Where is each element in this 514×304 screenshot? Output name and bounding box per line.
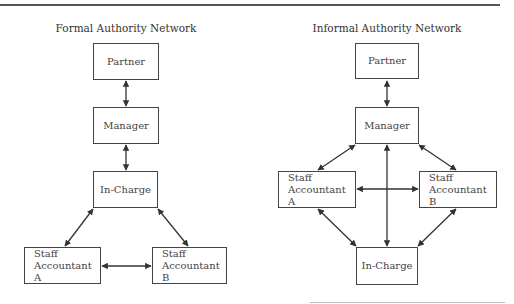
arrow-staffb-incharge-inf: [418, 209, 456, 246]
formal-manager-node: Manager: [93, 107, 159, 144]
informal-manager-node: Manager: [355, 107, 419, 144]
node-label: In-Charge: [362, 260, 413, 272]
arrow-incharge-staffa: [65, 209, 93, 246]
informal-partner-node: Partner: [355, 43, 419, 79]
formal-staff-accountant-b-node: StaffAccountant B: [152, 247, 227, 284]
node-label: Partner: [368, 55, 406, 67]
arrow-staffa-incharge-inf: [318, 209, 356, 246]
node-label: Manager: [364, 120, 410, 132]
node-label: Partner: [107, 56, 145, 68]
node-label-line2: Accountant B: [162, 260, 226, 284]
formal-partner-node: Partner: [93, 43, 159, 80]
informal-staff-accountant-b-node: StaffAccountant B: [419, 171, 497, 208]
arrow-incharge-staffb: [158, 209, 188, 246]
formal-staff-accountant-a-node: StaffAccountant A: [24, 247, 101, 284]
formal-network-title: Formal Authority Network: [56, 22, 197, 34]
formal-in-charge-node: In-Charge: [93, 171, 158, 208]
node-label-line1: Staff: [34, 248, 100, 260]
node-label-line2: Accountant B: [429, 184, 496, 208]
node-label-line2: Accountant A: [288, 184, 355, 208]
informal-staff-accountant-a-node: StaffAccountant A: [278, 171, 356, 208]
node-label-line1: Staff: [429, 172, 496, 184]
node-label-line1: Staff: [162, 248, 226, 260]
arrow-manager-staffa-inf: [318, 145, 355, 170]
informal-in-charge-node: In-Charge: [356, 247, 418, 285]
node-label: Manager: [103, 120, 149, 132]
node-label: In-Charge: [100, 184, 151, 196]
node-label-line1: Staff: [288, 172, 355, 184]
informal-network-title: Informal Authority Network: [313, 22, 462, 34]
node-label-line2: Accountant A: [34, 260, 100, 284]
arrow-manager-staffb-inf: [419, 145, 456, 170]
